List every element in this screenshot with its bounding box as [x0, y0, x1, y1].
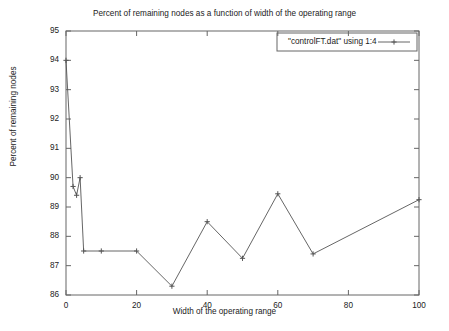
x-tick-label: 60 — [258, 301, 298, 310]
axis-ticks — [66, 31, 419, 295]
y-tick-label: 92 — [33, 114, 59, 123]
x-tick-label: 80 — [328, 301, 368, 310]
y-tick-label: 94 — [33, 55, 59, 64]
y-tick-label: 87 — [33, 261, 59, 270]
y-tick-label: 88 — [33, 231, 59, 240]
y-tick-label: 93 — [33, 85, 59, 94]
legend-sample-line — [378, 39, 410, 44]
x-tick-label: 40 — [187, 301, 227, 310]
x-tick-label: 20 — [117, 301, 157, 310]
y-tick-label: 89 — [33, 202, 59, 211]
plot-area — [0, 0, 449, 331]
chart-container: Percent of remaining nodes as a function… — [0, 0, 449, 331]
y-tick-label: 91 — [33, 143, 59, 152]
x-tick-label: 100 — [399, 301, 439, 310]
y-tick-label: 95 — [33, 26, 59, 35]
x-tick-label: 0 — [46, 301, 86, 310]
plot-frame — [66, 31, 419, 295]
legend-entry-label: "controlFT.dat" using 1:4 — [288, 37, 377, 46]
y-tick-label: 86 — [33, 290, 59, 299]
series-line — [66, 60, 419, 286]
data-series-group — [63, 58, 421, 289]
y-tick-label: 90 — [33, 173, 59, 182]
